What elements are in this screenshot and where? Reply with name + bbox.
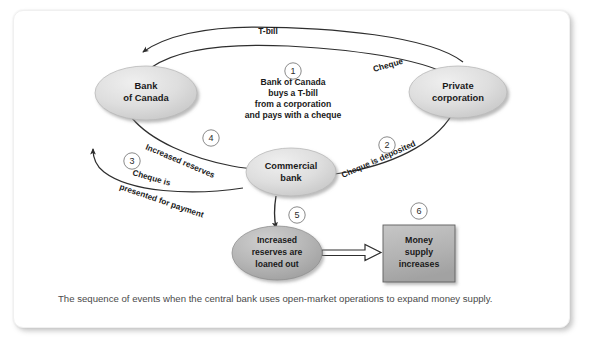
node-commercial-bank-line2: bank [280,173,302,183]
step-badge-6-label: 6 [416,206,421,216]
arrow-to-increased-reserves-node [275,196,277,228]
node-money-supply-line1: Money [405,235,433,245]
node-money-supply-line2: supply [405,247,433,257]
center-note: Bank of Canada buys a T-bill from a corp… [245,77,342,120]
step-badge-4: 4 [203,130,219,146]
node-increased-reserves-line3: loaned out [255,259,299,269]
node-commercial-bank: Commercial bank [246,148,336,196]
edge-label-tbill: T-bill [258,26,278,36]
edge-label-cheque: Cheque [372,56,405,74]
node-bank-of-canada-line1: Bank [135,80,159,91]
node-commercial-bank-shape [246,148,336,196]
edge-label-cheque-group: Cheque [372,56,405,74]
node-private-corporation-line2: corporation [432,92,484,103]
node-money-supply: Money supply increases [383,225,455,282]
arrow-cheque [152,45,455,78]
node-increased-reserves: Increased reserves are loaned out [232,226,322,280]
node-increased-reserves-line2: reserves are [252,247,303,257]
step-badge-2: 2 [379,137,395,153]
arrow-to-money-supply [322,245,381,261]
figure-container: T-bill Cheque Cheque is deposited presen… [0,0,591,348]
node-private-corporation: Private corporation [409,66,507,118]
step-badge-3-label: 3 [129,156,134,166]
step-badge-5-label: 5 [294,210,299,220]
edge-label-cheque-presented-line1: Cheque is [131,168,172,188]
figure-caption: The sequence of events when the central … [58,292,528,306]
step-badge-6: 6 [411,203,427,219]
edge-label-presented-group: presented for payment Cheque is [118,168,205,219]
step-badge-4-label: 4 [208,133,213,143]
edge-label-cheque-presented-line2: presented for payment [118,182,205,219]
node-increased-reserves-line1: Increased [257,235,297,245]
step-badge-1: 1 [285,63,301,79]
center-note-line4: and pays with a cheque [245,110,342,120]
arrow-tbill [143,27,463,62]
step-badge-5: 5 [289,207,305,223]
step-badge-3: 3 [124,153,140,169]
node-private-corporation-line1: Private [442,80,473,91]
center-note-line2: buys a T-bill [268,88,318,98]
node-bank-of-canada-line2: of Canada [123,92,169,103]
node-bank-of-canada: Bank of Canada [95,66,197,120]
step-badge-2-label: 2 [384,140,389,150]
node-commercial-bank-line1: Commercial [265,161,318,171]
node-money-supply-line3: increases [399,259,440,269]
center-note-line3: from a corporation [255,99,331,109]
step-badge-1-label: 1 [290,66,295,76]
